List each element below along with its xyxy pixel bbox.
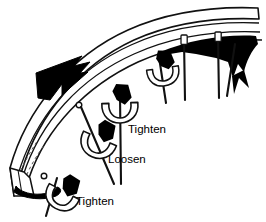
diagram-canvas: Tighten Loosen Tighten <box>0 0 266 222</box>
nipple-6 <box>215 32 221 42</box>
label-tighten-upper: Tighten <box>128 123 166 135</box>
spoke-6 <box>218 37 219 98</box>
nipple-5 <box>181 35 187 45</box>
spoke-tension-illustration: Tighten Loosen Tighten <box>0 0 266 222</box>
rim-eyelet-lower <box>41 173 47 179</box>
spoke-5 <box>184 40 185 100</box>
label-loosen: Loosen <box>108 153 146 165</box>
spoke-3 <box>120 94 121 184</box>
label-tighten-lower: Tighten <box>76 195 114 207</box>
